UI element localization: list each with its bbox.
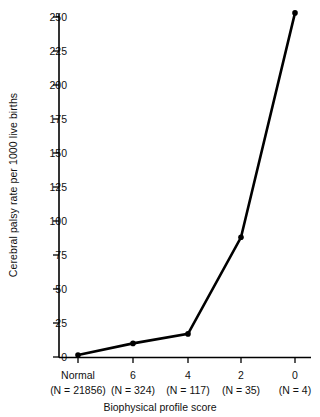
chart-figure: Cerebral palsy rate per 1000 live births… (0, 0, 320, 417)
data-point-2 (238, 235, 244, 241)
chart-canvas (0, 0, 320, 417)
y-tick-marks (53, 17, 59, 357)
x-tick-marks (78, 358, 295, 364)
plot-area: 250 225 200 175 150 125 100 75 50 25 0 N… (0, 0, 320, 417)
data-point-4 (185, 331, 191, 337)
data-point-markers (75, 10, 298, 358)
data-point-6 (130, 341, 136, 347)
data-point-normal (75, 352, 81, 358)
data-series-line (78, 13, 295, 355)
data-point-0 (292, 10, 298, 16)
